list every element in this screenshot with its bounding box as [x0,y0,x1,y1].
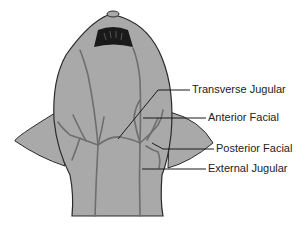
label-external-jugular: External Jugular [208,163,288,174]
label-posterior-facial: Posterior Facial [216,143,292,154]
right-ear [168,112,213,168]
label-anterior-facial: Anterior Facial [208,112,279,123]
nose [107,11,119,17]
mouth [94,27,133,47]
head-body [54,15,172,216]
label-transverse-jugular: Transverse Jugular [192,84,286,95]
